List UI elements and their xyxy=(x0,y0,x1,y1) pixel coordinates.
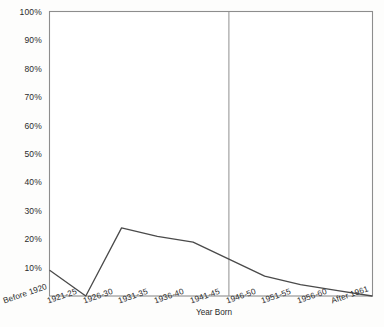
y-tick-label: 60% xyxy=(8,121,42,131)
y-tick-label: 10% xyxy=(8,263,42,273)
x-axis-title: Year Born xyxy=(196,308,232,317)
y-tick-label: 90% xyxy=(8,35,42,45)
plot-frame xyxy=(50,12,373,297)
y-tick-label: 20% xyxy=(8,234,42,244)
y-tick-label: 80% xyxy=(8,64,42,74)
y-tick-label: 70% xyxy=(8,92,42,102)
y-tick-label: 50% xyxy=(8,149,42,159)
plot-area-border xyxy=(50,12,373,297)
y-tick-label: 100% xyxy=(8,7,42,17)
y-tick-label: 40% xyxy=(8,177,42,187)
y-tick-label: 30% xyxy=(8,206,42,216)
chart-container: 10%20%30%40%50%60%70%80%90%100% Before 1… xyxy=(0,0,384,327)
chart-plot-svg xyxy=(0,0,384,327)
